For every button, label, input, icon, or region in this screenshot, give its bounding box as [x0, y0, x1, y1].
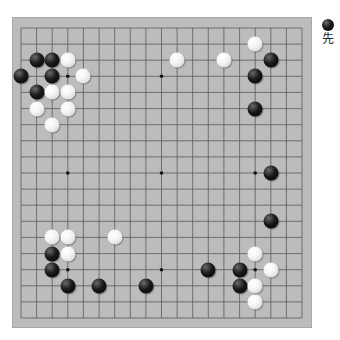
white-stone[interactable]: [60, 53, 75, 68]
white-stone[interactable]: [60, 246, 75, 261]
black-stone[interactable]: [248, 101, 263, 116]
star-point: [160, 268, 164, 272]
black-stone[interactable]: [29, 85, 44, 100]
white-stone[interactable]: [216, 53, 231, 68]
black-stone[interactable]: [29, 53, 44, 68]
white-stone[interactable]: [45, 85, 60, 100]
star-point: [253, 171, 257, 175]
black-stone[interactable]: [138, 278, 153, 293]
black-stone[interactable]: [263, 166, 278, 181]
white-stone[interactable]: [60, 101, 75, 116]
black-stone[interactable]: [232, 262, 247, 277]
black-stone[interactable]: [45, 262, 60, 277]
star-point: [160, 75, 164, 79]
black-stone[interactable]: [45, 53, 60, 68]
white-stone[interactable]: [248, 37, 263, 52]
white-stone[interactable]: [248, 278, 263, 293]
black-stone[interactable]: [92, 278, 107, 293]
white-stone[interactable]: [248, 246, 263, 261]
white-stone[interactable]: [60, 230, 75, 245]
black-stone[interactable]: [60, 278, 75, 293]
star-point: [160, 171, 164, 175]
turn-label: 先: [318, 32, 338, 46]
white-stone[interactable]: [263, 262, 278, 277]
black-stone[interactable]: [201, 262, 216, 277]
star-point: [66, 75, 70, 79]
star-point: [253, 268, 257, 272]
white-stone[interactable]: [45, 117, 60, 132]
go-board[interactable]: [12, 17, 312, 328]
turn-indicator: 先: [318, 19, 338, 46]
white-stone[interactable]: [45, 230, 60, 245]
star-point: [66, 171, 70, 175]
white-stone[interactable]: [60, 85, 75, 100]
black-stone[interactable]: [45, 69, 60, 84]
black-stone[interactable]: [248, 69, 263, 84]
black-stone[interactable]: [263, 214, 278, 229]
black-stone[interactable]: [232, 278, 247, 293]
white-stone[interactable]: [107, 230, 122, 245]
black-stone[interactable]: [14, 69, 29, 84]
white-stone[interactable]: [76, 69, 91, 84]
black-stone[interactable]: [263, 53, 278, 68]
star-point: [66, 268, 70, 272]
black-stone-icon: [322, 19, 334, 31]
white-stone[interactable]: [29, 101, 44, 116]
white-stone[interactable]: [248, 294, 263, 309]
black-stone[interactable]: [45, 246, 60, 261]
white-stone[interactable]: [170, 53, 185, 68]
